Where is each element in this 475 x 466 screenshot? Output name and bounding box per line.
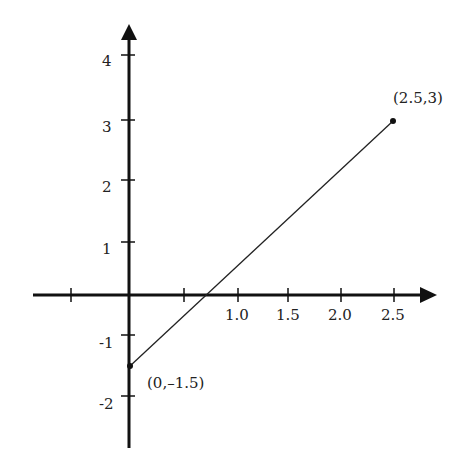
coordinate-plane: 4 3 2 1 -1 -2 1.0 1.5 2.0 2.5 (0,–1.5) (… [0, 0, 475, 466]
y-tick-label: 1 [102, 240, 112, 258]
x-tick-label: 1.5 [276, 306, 300, 324]
y-tick-label: -1 [99, 334, 114, 352]
y-axis-arrow-icon [121, 24, 137, 40]
y-tick-label: 4 [102, 52, 112, 70]
y-tick-label: 2 [102, 178, 112, 196]
x-tick-label: 2.0 [328, 306, 352, 324]
x-tick-label: 1.0 [225, 306, 249, 324]
x-tick-label: 2.5 [381, 306, 405, 324]
y-tick-label: -2 [99, 395, 114, 413]
point-end [390, 118, 396, 124]
point-label-start: (0,–1.5) [147, 374, 204, 392]
point-start [127, 363, 133, 369]
point-label-end: (2.5,3) [393, 89, 443, 107]
line-segment [130, 121, 393, 366]
x-axis-arrow-icon [420, 287, 437, 303]
y-tick-label: 3 [102, 118, 112, 136]
